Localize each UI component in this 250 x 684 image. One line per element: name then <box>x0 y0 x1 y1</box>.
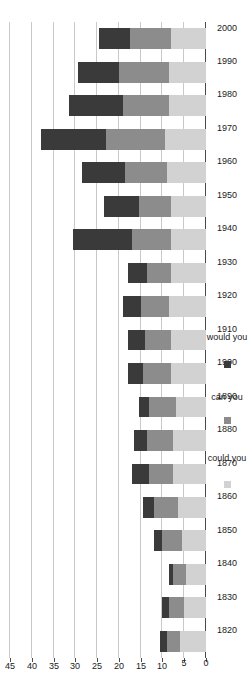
bar-segment-could-you[interactable] <box>171 330 206 351</box>
bar-segment-would-you[interactable] <box>143 497 154 518</box>
bar-segment-would-you[interactable] <box>104 196 139 217</box>
bar-segment-would-you[interactable] <box>134 430 147 451</box>
bar-segment-can-you[interactable] <box>125 162 166 183</box>
value-tick-label: 30 <box>70 661 80 671</box>
bar-group[interactable] <box>10 558 206 591</box>
bar-segment-can-you[interactable] <box>123 95 169 116</box>
bar-segment-would-you[interactable] <box>82 162 126 183</box>
bar-segment-could-you[interactable] <box>173 464 206 485</box>
bar-segment-can-you[interactable] <box>139 196 172 217</box>
bar-group[interactable] <box>10 323 206 356</box>
bar-segment-would-you[interactable] <box>139 397 150 418</box>
bar-segment-can-you[interactable] <box>173 564 186 585</box>
chart-rotation-wrapper: 051015202530354045 182018301840185018601… <box>0 0 250 684</box>
bar-segment-can-you[interactable] <box>149 464 173 485</box>
bar-segment-would-you[interactable] <box>154 530 163 551</box>
bar-group[interactable] <box>10 357 206 390</box>
bar-segment-could-you[interactable] <box>171 229 206 250</box>
stacked-bar[interactable] <box>82 162 206 183</box>
stacked-bar[interactable] <box>139 397 206 418</box>
bar-segment-can-you[interactable] <box>162 530 182 551</box>
bar-group[interactable] <box>10 22 206 55</box>
bar-segment-could-you[interactable] <box>171 363 206 384</box>
bar-segment-would-you[interactable] <box>128 330 145 351</box>
legend-item[interactable]: could you <box>222 438 232 488</box>
stacked-bar[interactable] <box>162 597 206 618</box>
bar-segment-could-you[interactable] <box>178 497 206 518</box>
bar-segment-can-you[interactable] <box>167 631 180 652</box>
bar-segment-would-you[interactable] <box>123 296 140 317</box>
stacked-bar[interactable] <box>128 363 206 384</box>
stacked-bar[interactable] <box>154 530 206 551</box>
bar-segment-could-you[interactable] <box>171 28 206 49</box>
bar-segment-would-you[interactable] <box>128 263 148 284</box>
stacked-bar[interactable] <box>143 497 206 518</box>
bar-segment-can-you[interactable] <box>147 263 171 284</box>
stacked-bar[interactable] <box>104 196 206 217</box>
bar-group[interactable] <box>10 491 206 524</box>
bar-segment-could-you[interactable] <box>184 597 206 618</box>
bar-group[interactable] <box>10 390 206 423</box>
bar-group[interactable] <box>10 457 206 490</box>
bar-group[interactable] <box>10 524 206 557</box>
value-tick-label: 45 <box>5 661 15 671</box>
bar-segment-could-you[interactable] <box>167 162 206 183</box>
bar-group[interactable] <box>10 56 206 89</box>
bar-segment-would-you[interactable] <box>41 129 106 150</box>
stacked-bar[interactable] <box>69 95 206 116</box>
bar-segment-can-you[interactable] <box>149 397 175 418</box>
legend-item[interactable]: would you <box>222 316 232 368</box>
stacked-bar[interactable] <box>78 62 206 83</box>
bar-segment-would-you[interactable] <box>132 464 149 485</box>
bar-group[interactable] <box>10 591 206 624</box>
stacked-bar[interactable] <box>132 464 206 485</box>
bar-segment-could-you[interactable] <box>169 62 206 83</box>
stacked-bar[interactable] <box>169 564 206 585</box>
bar-segment-can-you[interactable] <box>147 430 173 451</box>
stacked-bar[interactable] <box>128 263 206 284</box>
bar-group[interactable] <box>10 123 206 156</box>
bar-segment-could-you[interactable] <box>180 631 206 652</box>
bar-segment-could-you[interactable] <box>169 95 206 116</box>
stacked-bar[interactable] <box>41 129 207 150</box>
bar-segment-would-you[interactable] <box>78 62 119 83</box>
bar-segment-could-you[interactable] <box>169 296 206 317</box>
bar-segment-would-you[interactable] <box>69 95 123 116</box>
stacked-bar[interactable] <box>128 330 206 351</box>
bar-group[interactable] <box>10 424 206 457</box>
bar-segment-can-you[interactable] <box>106 129 165 150</box>
bar-group[interactable] <box>10 156 206 189</box>
stacked-bar[interactable] <box>73 229 206 250</box>
bar-group[interactable] <box>10 223 206 256</box>
bar-segment-could-you[interactable] <box>165 129 206 150</box>
stacked-bar[interactable] <box>99 28 206 49</box>
bar-group[interactable] <box>10 290 206 323</box>
bar-segment-can-you[interactable] <box>145 330 171 351</box>
chart-figure: 051015202530354045 182018301840185018601… <box>0 0 250 684</box>
bar-segment-could-you[interactable] <box>176 397 206 418</box>
bar-group[interactable] <box>10 189 206 222</box>
bar-segment-could-you[interactable] <box>171 196 206 217</box>
bar-segment-would-you[interactable] <box>128 363 143 384</box>
bar-group[interactable] <box>10 625 206 658</box>
bar-segment-can-you[interactable] <box>154 497 178 518</box>
stacked-bar[interactable] <box>134 430 206 451</box>
value-tick-label: 5 <box>182 659 187 669</box>
bar-segment-can-you[interactable] <box>119 62 169 83</box>
bar-segment-can-you[interactable] <box>169 597 184 618</box>
bar-segment-could-you[interactable] <box>182 530 206 551</box>
bar-segment-can-you[interactable] <box>141 296 169 317</box>
stacked-bar[interactable] <box>160 631 206 652</box>
bar-group[interactable] <box>10 89 206 122</box>
bar-segment-could-you[interactable] <box>171 263 206 284</box>
bar-segment-can-you[interactable] <box>143 363 171 384</box>
bar-segment-would-you[interactable] <box>73 229 132 250</box>
bar-segment-could-you[interactable] <box>173 430 206 451</box>
bar-segment-would-you[interactable] <box>99 28 129 49</box>
bar-segment-can-you[interactable] <box>132 229 171 250</box>
stacked-bar[interactable] <box>123 296 206 317</box>
bar-group[interactable] <box>10 256 206 289</box>
bar-segment-could-you[interactable] <box>186 564 206 585</box>
legend-item[interactable]: can you <box>222 382 232 425</box>
bar-segment-can-you[interactable] <box>130 28 171 49</box>
